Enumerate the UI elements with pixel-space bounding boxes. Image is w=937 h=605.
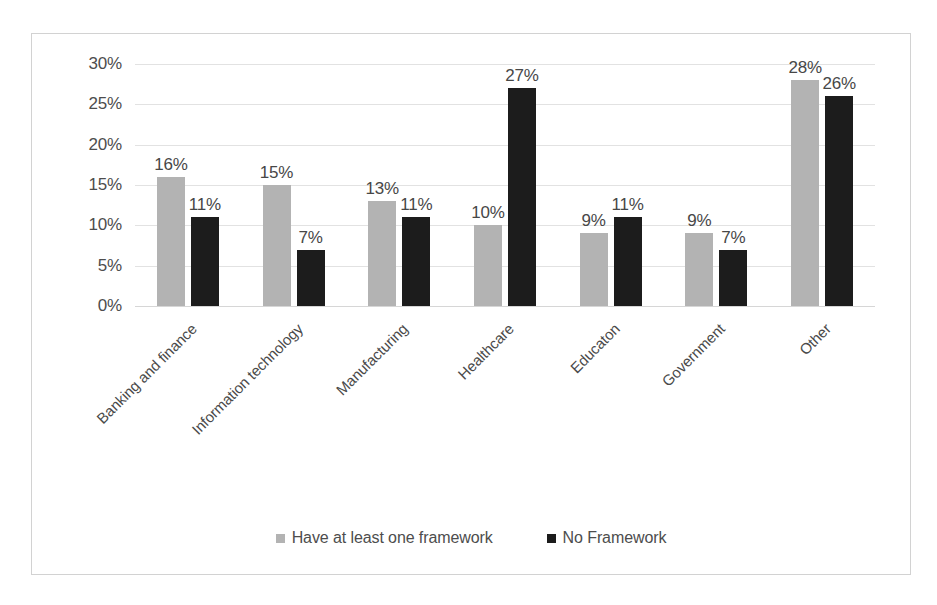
bar[interactable]: 11% [191, 217, 219, 306]
bar-value-label: 7% [721, 228, 745, 248]
bar[interactable]: 28% [791, 80, 819, 306]
chart-legend: Have at least one frameworkNo Framework [32, 529, 910, 547]
bar-pair: 9%11% [558, 64, 664, 306]
bar-group: 15%7%Information technology [241, 64, 347, 306]
y-axis-tick-label: 15% [89, 175, 122, 195]
bar-group: 28%26%Other [769, 64, 875, 306]
bar[interactable]: 10% [474, 225, 502, 306]
x-axis-line [135, 306, 875, 307]
y-axis-tick-label: 30% [89, 54, 122, 74]
x-axis-category-label: Healthcare [454, 320, 517, 383]
legend-label: No Framework [563, 529, 667, 547]
x-axis-category-label: Other [796, 320, 834, 358]
bar[interactable]: 11% [614, 217, 642, 306]
bar-group: 10%27%Healthcare [452, 64, 558, 306]
x-axis-category-label: Government [659, 320, 729, 390]
bar-value-label: 9% [582, 211, 606, 231]
y-axis-tick-label: 0% [98, 296, 122, 316]
x-axis-category-label: Educaton [566, 320, 622, 376]
bar-value-label: 26% [822, 74, 855, 94]
bar-group: 13%11%Manufacturing [346, 64, 452, 306]
bar-group: 16%11%Banking and finance [135, 64, 241, 306]
bar-pair: 13%11% [346, 64, 452, 306]
x-axis-category-label: Manufacturing [333, 320, 411, 398]
y-axis-tick-label: 5% [98, 256, 122, 276]
bar-value-label: 15% [260, 163, 293, 183]
bar[interactable]: 27% [508, 88, 536, 306]
bar-pair: 9%7% [664, 64, 770, 306]
bar[interactable]: 16% [157, 177, 185, 306]
bar[interactable]: 11% [402, 217, 430, 306]
y-axis-tick-label: 25% [89, 94, 122, 114]
bar[interactable]: 15% [263, 185, 291, 306]
bar[interactable]: 7% [719, 250, 747, 306]
bar[interactable]: 9% [685, 233, 713, 306]
square-marker-light [276, 534, 285, 543]
bar-pair: 16%11% [135, 64, 241, 306]
bar-pair: 10%27% [452, 64, 558, 306]
bar-value-label: 28% [788, 58, 821, 78]
bar-value-label: 13% [366, 179, 399, 199]
bar-group: 9%7%Government [664, 64, 770, 306]
bar-group: 9%11%Educaton [558, 64, 664, 306]
plot-area: 0%5%10%15%20%25%30%16%11%Banking and fin… [135, 64, 875, 306]
bar-value-label: 9% [687, 211, 711, 231]
legend-label: Have at least one framework [292, 529, 493, 547]
bar-value-label: 16% [154, 155, 187, 175]
bar[interactable]: 26% [825, 96, 853, 306]
chart-frame: 0%5%10%15%20%25%30%16%11%Banking and fin… [31, 33, 911, 575]
bar-value-label: 11% [189, 195, 221, 215]
legend-item[interactable]: No Framework [547, 529, 667, 547]
bar[interactable]: 9% [580, 233, 608, 306]
y-axis-tick-label: 10% [89, 215, 122, 235]
bar-value-label: 27% [505, 66, 538, 86]
bar[interactable]: 7% [297, 250, 325, 306]
x-axis-category-label: Information technology [188, 320, 306, 438]
bar-value-label: 11% [612, 195, 644, 215]
y-axis-tick-label: 20% [89, 135, 122, 155]
legend-item[interactable]: Have at least one framework [276, 529, 493, 547]
square-marker-dark [547, 534, 556, 543]
bar-pair: 15%7% [241, 64, 347, 306]
bar-value-label: 11% [400, 195, 432, 215]
bar[interactable]: 13% [368, 201, 396, 306]
bar-value-label: 7% [298, 228, 322, 248]
bar-value-label: 10% [471, 203, 504, 223]
x-axis-category-label: Banking and finance [93, 320, 200, 427]
bar-pair: 28%26% [769, 64, 875, 306]
